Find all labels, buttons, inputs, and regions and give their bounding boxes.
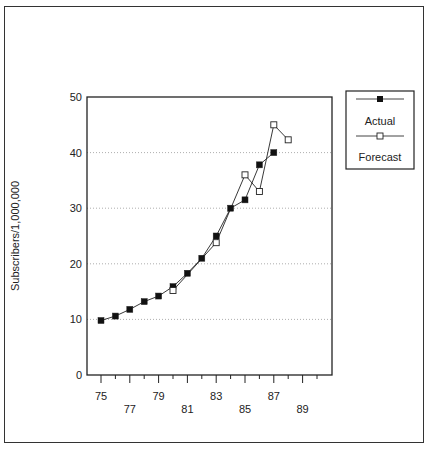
x-tick-label: 83	[210, 390, 222, 402]
y-axis: 01020304050	[70, 91, 82, 381]
forecast-marker	[271, 122, 277, 128]
x-tick-label: 87	[268, 390, 280, 402]
actual-marker	[228, 205, 234, 211]
actual-marker	[156, 293, 162, 299]
y-tick-label: 30	[70, 202, 82, 214]
forecast-marker	[285, 137, 291, 143]
actual-marker	[242, 197, 248, 203]
y-tick-label: 40	[70, 147, 82, 159]
legend-forecast-label: Forecast	[359, 151, 402, 163]
actual-marker	[112, 313, 118, 319]
forecast-marker	[242, 172, 248, 178]
y-tick-label: 20	[70, 258, 82, 270]
open-square-icon	[377, 133, 383, 139]
x-tick-label: 75	[95, 390, 107, 402]
x-tick-label: 89	[296, 403, 308, 415]
forecast-marker	[256, 189, 262, 195]
legend: Actual Forecast	[346, 91, 414, 169]
actual-marker	[256, 162, 262, 168]
forecast-marker	[170, 287, 176, 293]
y-axis-label: Subscribers/1,000,000	[9, 181, 21, 291]
data-series	[98, 122, 291, 324]
actual-marker	[98, 318, 104, 324]
x-tick-label: 81	[181, 403, 193, 415]
y-tick-label: 50	[70, 91, 82, 103]
y-tick-label: 0	[76, 369, 82, 381]
actual-marker	[141, 299, 147, 305]
actual-marker	[127, 306, 133, 312]
x-axis: 7577798183858789	[95, 375, 317, 415]
line-chart: 01020304050 7577798183858789 Subscribers…	[0, 0, 430, 452]
actual-marker	[271, 150, 277, 156]
forecast-marker	[213, 240, 219, 246]
gridlines	[87, 153, 332, 320]
legend-actual-label: Actual	[365, 115, 396, 127]
y-tick-label: 10	[70, 313, 82, 325]
x-tick-label: 79	[152, 390, 164, 402]
actual-marker	[184, 270, 190, 276]
actual-marker	[199, 255, 205, 261]
actual-marker	[213, 233, 219, 239]
x-tick-label: 85	[239, 403, 251, 415]
x-tick-label: 77	[124, 403, 136, 415]
filled-square-icon	[377, 96, 383, 102]
plot-area	[87, 97, 332, 375]
